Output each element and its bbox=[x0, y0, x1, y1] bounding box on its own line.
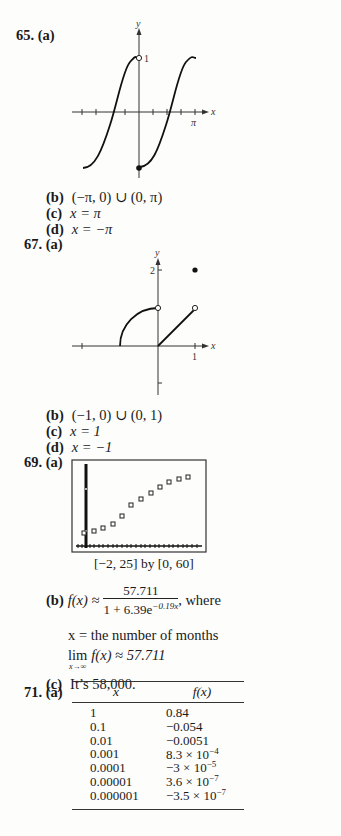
table-row: 0.000001−3.5 × 10−7 bbox=[72, 789, 244, 803]
variable-definition: x = the number of months bbox=[68, 627, 218, 644]
window-caption: [−2, 25] by [0, 60] bbox=[94, 556, 194, 572]
problem-67-number: 67. (a) bbox=[24, 236, 63, 253]
problem-69-number: 69. (a) bbox=[24, 454, 63, 471]
svg-text:1: 1 bbox=[192, 351, 197, 362]
problem-69-part-b: (b) f(x) ≈ 57.711 1 + 6.39e−0.19x , wher… bbox=[46, 584, 221, 617]
table-header: x f(x) bbox=[72, 682, 244, 703]
graph-69a-calculator-window bbox=[0, 0, 341, 120]
svg-text:x: x bbox=[210, 340, 216, 351]
values-table: x f(x) 10.84 0.1−0.054 0.01−0.0051 0.001… bbox=[72, 681, 244, 810]
limit-expression: lim x→∞ f(x) ≈ 57.711 bbox=[68, 648, 165, 671]
svg-text:y: y bbox=[154, 247, 160, 258]
svg-text:2: 2 bbox=[150, 265, 155, 276]
function-lhs: f(x) ≈ bbox=[68, 592, 100, 609]
logistic-fraction: 57.711 1 + 6.39e−0.19x bbox=[103, 584, 178, 617]
problem-71-number: 71. (a) bbox=[24, 684, 63, 701]
